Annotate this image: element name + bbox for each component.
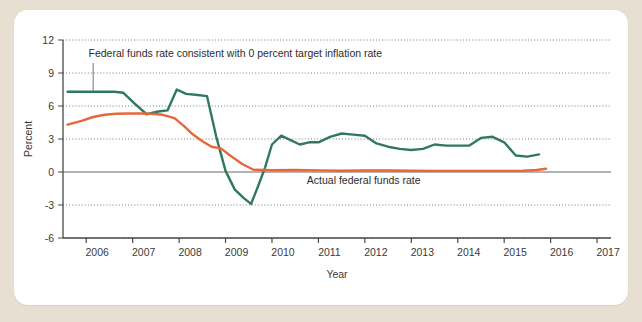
x-tick-label: 2010 — [271, 246, 295, 258]
actual-rate-label: Actual federal funds rate — [307, 174, 421, 186]
x-tick-label: 2012 — [364, 246, 388, 258]
series-line-taylor-rule — [68, 90, 539, 204]
x-tick-label: 2008 — [178, 246, 202, 258]
y-tick-label: 12 — [42, 34, 54, 46]
y-tick-label: 0 — [48, 166, 54, 178]
y-axis-title: Percent — [22, 121, 34, 157]
x-tick-label: 2016 — [550, 246, 574, 258]
x-tick-label: 2015 — [504, 246, 528, 258]
chart-plot-area: -6-3036912200620072008200920102011201220… — [14, 10, 628, 305]
x-tick-label: 2013 — [411, 246, 435, 258]
y-tick-label: 9 — [48, 67, 54, 79]
y-tick-label: 6 — [48, 100, 54, 112]
x-tick-label: 2007 — [132, 246, 156, 258]
x-axis-title: Year — [326, 268, 348, 280]
taylor-rule-label: Federal funds rate consistent with 0 per… — [89, 47, 383, 59]
x-tick-label: 2014 — [457, 246, 481, 258]
x-tick-label: 2006 — [86, 246, 110, 258]
y-tick-label: -3 — [45, 199, 54, 211]
x-tick-label: 2011 — [318, 246, 341, 258]
y-tick-label: -6 — [45, 232, 54, 244]
chart-card: -6-3036912200620072008200920102011201220… — [14, 10, 628, 305]
x-tick-label: 2017 — [596, 246, 620, 258]
figure-page: -6-3036912200620072008200920102011201220… — [0, 0, 642, 322]
x-tick-label: 2009 — [225, 246, 249, 258]
line-chart: -6-3036912200620072008200920102011201220… — [14, 10, 628, 305]
y-tick-label: 3 — [48, 133, 54, 145]
